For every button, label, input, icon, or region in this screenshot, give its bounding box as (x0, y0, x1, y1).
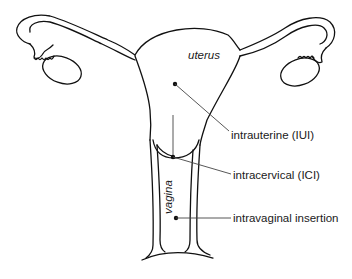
left-ovary (39, 51, 85, 89)
vagina-label: vagina (163, 180, 175, 214)
callout-ivi (174, 216, 231, 220)
callout-iui (173, 82, 229, 131)
intrauterine-label: intrauterine (IUI) (231, 130, 314, 142)
intracervical-label: intracervical (ICI) (233, 170, 320, 182)
intravaginal-label: intravaginal insertion (233, 213, 338, 225)
right-ovary (277, 53, 323, 91)
reproductive-anatomy-diagram: uterus vagina intrauterine (IUI) intrace… (0, 0, 352, 279)
uterus-label: uterus (188, 50, 220, 62)
